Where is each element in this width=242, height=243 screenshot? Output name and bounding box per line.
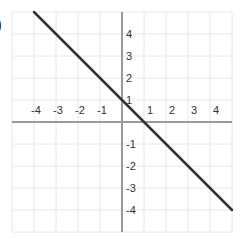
x-tick-label: -4 bbox=[31, 104, 41, 116]
x-tick-label: -3 bbox=[53, 104, 63, 116]
x-tick-label: -2 bbox=[75, 104, 85, 116]
y-tick-label: 4 bbox=[126, 28, 132, 40]
plotted-line bbox=[34, 12, 232, 210]
y-tick-label: -1 bbox=[126, 138, 136, 150]
x-tick-label: -1 bbox=[97, 104, 107, 116]
y-tick-label: -3 bbox=[126, 182, 136, 194]
x-tick-label: 2 bbox=[169, 104, 175, 116]
x-tick-label: 4 bbox=[213, 104, 219, 116]
axes bbox=[12, 12, 232, 232]
line-series bbox=[34, 12, 232, 210]
coordinate-plane: -4-3-2-11234 4321-1-2-3-4 bbox=[0, 0, 242, 243]
y-tick-label: -4 bbox=[126, 204, 136, 216]
x-tick-label: 1 bbox=[147, 104, 153, 116]
y-tick-label: -2 bbox=[126, 160, 136, 172]
y-tick-label: 2 bbox=[126, 72, 132, 84]
y-tick-label: 3 bbox=[126, 50, 132, 62]
x-tick-label: 3 bbox=[191, 104, 197, 116]
